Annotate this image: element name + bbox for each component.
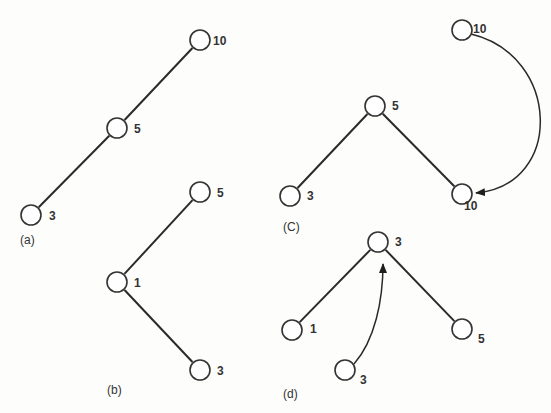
node-key-label: 3: [217, 364, 224, 378]
tree-node: 5: [452, 319, 485, 346]
node-circle: [282, 320, 302, 340]
panel-a: 1053(a): [20, 30, 227, 247]
tree-node: 10: [452, 184, 478, 213]
tree-node: 3: [335, 360, 367, 387]
tree-edge: [125, 290, 193, 362]
node-key-label: 5: [478, 332, 485, 346]
tree-node: 1: [282, 320, 317, 340]
move-arrow: [354, 264, 383, 364]
tree-node: 3: [190, 360, 224, 380]
node-circle: [190, 360, 210, 380]
node-key-label: 10: [473, 22, 487, 36]
tree-node: 3: [368, 232, 402, 252]
node-circle: [190, 30, 210, 50]
tree-edge: [298, 114, 368, 188]
node-circle: [335, 360, 355, 380]
panel-d: 3153(d): [282, 232, 485, 401]
panel-b: 513(b): [107, 182, 224, 397]
node-key-label: 3: [360, 373, 367, 387]
panel-label-b: (b): [107, 383, 122, 397]
tree-edge: [383, 114, 455, 186]
tree-node: 3: [21, 205, 56, 225]
panel-label-a: (a): [20, 233, 35, 247]
tree-node: 5: [107, 118, 141, 138]
tree-node: 5: [190, 182, 224, 202]
node-key-label: 5: [217, 186, 224, 200]
tree-diagram-figure: ​ 1053(a)513(b)105310(C)3153(d): [0, 0, 551, 413]
panel-label-d: (d): [283, 387, 298, 401]
node-key-label: 3: [307, 189, 314, 203]
node-key-label: 1: [310, 322, 317, 336]
node-circle: [280, 186, 300, 206]
node-circle: [452, 319, 472, 339]
tree-node: 1: [107, 272, 141, 292]
panel-c: 105310(C): [280, 20, 540, 234]
node-key-label: 5: [392, 99, 399, 113]
tree-edge: [300, 250, 371, 322]
diagram-panels: 1053(a)513(b)105310(C)3153(d): [20, 20, 540, 401]
tree-diagram-canvas: ​ 1053(a)513(b)105310(C)3153(d): [0, 0, 551, 413]
node-circle: [452, 20, 472, 40]
tree-node: 5: [365, 96, 399, 116]
node-circle: [368, 232, 388, 252]
node-key-label: 3: [49, 209, 56, 223]
node-key-label: 10: [464, 199, 478, 213]
node-key-label: 1: [134, 276, 141, 290]
node-circle: [107, 118, 127, 138]
node-key-label: 3: [395, 235, 402, 249]
node-key-label: 10: [213, 34, 227, 48]
move-arrow: [471, 34, 540, 193]
tree-node: 10: [190, 30, 227, 50]
node-circle: [21, 205, 41, 225]
node-circle: [107, 272, 127, 292]
node-circle: [190, 182, 210, 202]
node-key-label: 5: [134, 122, 141, 136]
tree-node: 3: [280, 186, 314, 206]
tree-edge: [124, 200, 192, 274]
tree-edge: [386, 250, 455, 321]
tree-edge: [125, 48, 193, 120]
panel-label-c: (C): [283, 220, 300, 234]
tree-edge: [39, 136, 110, 207]
node-circle: [365, 96, 385, 116]
